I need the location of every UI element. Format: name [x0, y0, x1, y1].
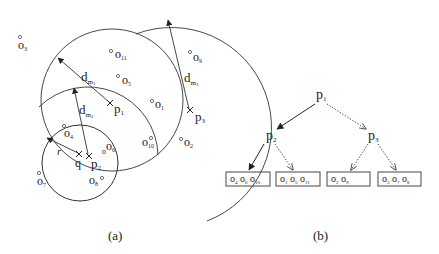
object-o5: o5	[116, 73, 131, 87]
label-r: r	[57, 145, 62, 157]
svg-text:o3 o7 o8: o3 o7 o8	[382, 173, 410, 186]
tree-leaf-4: o3 o7 o8	[378, 172, 421, 186]
tree-edge-p3-leaf4	[378, 144, 396, 170]
tree-node-p2: p2	[266, 128, 277, 144]
tree-leaf-3: o2 o9	[327, 172, 370, 186]
object-o6: o6	[102, 139, 115, 154]
label-dm2: dm2	[79, 102, 94, 119]
object-o7: o7	[37, 171, 46, 188]
object-o3: o3	[18, 35, 27, 52]
object-o11: o11	[109, 47, 126, 61]
object-o2: o2	[179, 135, 193, 149]
svg-text:o11: o11	[115, 47, 127, 61]
arrow-dm2	[74, 88, 88, 154]
object-o8: o8	[89, 173, 104, 187]
label-q: q	[75, 156, 81, 170]
object-o1: o1	[150, 97, 164, 111]
tree-leaf-1: o4 o6 o10	[226, 172, 270, 186]
pivot-p3-cross	[187, 107, 193, 113]
svg-text:o9: o9	[193, 50, 202, 64]
svg-text:o4 o6 o10: o4 o6 o10	[230, 173, 261, 186]
caption-a: (a)	[108, 228, 122, 244]
figure-a-ball-partition: p1 p2 p3 q r dm1 dm2 dm3 o1 o2 o3 o4 o5	[18, 16, 285, 221]
svg-text:o3: o3	[18, 38, 27, 52]
object-o4: o4	[62, 124, 73, 140]
caption-b: (b)	[313, 228, 328, 244]
figure-b-tree: p1 p2 p3 o4 o6 o10 o1 o5 o11	[226, 87, 421, 186]
arrow-dm3	[168, 20, 189, 109]
svg-text:o5: o5	[122, 73, 131, 87]
label-p1: p1	[114, 101, 125, 117]
figure-canvas: p1 p2 p3 q r dm1 dm2 dm3 o1 o2 o3 o4 o5	[0, 0, 439, 254]
svg-text:o1: o1	[155, 97, 164, 111]
tree-edge-p2-leaf1	[249, 144, 264, 170]
svg-text:o8: o8	[89, 173, 98, 187]
tree-node-p3: p3	[368, 128, 379, 144]
label-dm1: dm1	[81, 69, 96, 86]
svg-text:o2: o2	[184, 135, 193, 149]
tree-node-p1: p1	[316, 87, 327, 103]
tree-edge-p3-leaf3	[351, 144, 368, 170]
object-o9: o9	[188, 50, 202, 64]
label-p2: p2	[91, 156, 102, 172]
label-dm3: dm3	[184, 70, 199, 87]
svg-text:o4: o4	[64, 126, 73, 140]
svg-text:o1 o5 o11: o1 o5 o11	[280, 173, 310, 186]
tree-edge-p1-p3	[327, 104, 366, 129]
tree-edge-p1-p2	[277, 104, 315, 129]
object-o10: o10	[142, 135, 154, 149]
pivot-p1-cross	[107, 100, 113, 106]
label-p3: p3	[195, 109, 206, 125]
tree-leaf-2: o1 o5 o11	[276, 172, 320, 186]
svg-text:o2 o9: o2 o9	[331, 173, 349, 186]
